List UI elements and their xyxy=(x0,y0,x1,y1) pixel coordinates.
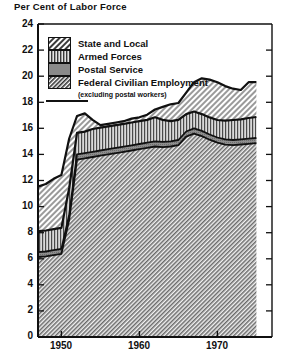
legend-swatch-armed-forces xyxy=(48,50,71,63)
y-tick-label-20: 20 xyxy=(13,70,33,81)
legend-label-postal-service: Postal Service xyxy=(78,65,143,75)
legend-item-postal-service: Postal Service xyxy=(48,63,244,76)
y-tick-label-4: 4 xyxy=(13,278,33,289)
legend-swatch-postal-service xyxy=(48,63,71,76)
y-tick-label-0: 0 xyxy=(13,330,33,341)
x-tick-label-1960: 1960 xyxy=(119,340,159,351)
y-tick-label-12: 12 xyxy=(13,174,33,185)
y-tick-label-6: 6 xyxy=(13,252,33,263)
y-tick-label-10: 10 xyxy=(13,200,33,211)
legend-label-armed-forces: Armed Forces xyxy=(78,52,142,62)
legend-label-federal-civilian-employment: Federal Civilian Employment xyxy=(78,78,208,88)
y-tick-label-16: 16 xyxy=(13,122,33,133)
y-tick-label-2: 2 xyxy=(13,304,33,315)
y-tick-label-22: 22 xyxy=(13,44,33,55)
legend-swatch-federal-civilian-employment xyxy=(48,76,71,89)
legend-baseline-bar xyxy=(46,100,88,102)
y-tick-label-24: 24 xyxy=(13,18,33,29)
y-tick-label-8: 8 xyxy=(13,226,33,237)
chart-figure: Per Cent of Labor Force xyxy=(0,0,290,361)
chart-legend: State and Local Armed Forces Postal Serv… xyxy=(48,37,244,99)
legend-item-state-and-local: State and Local xyxy=(48,37,244,50)
y-tick-label-14: 14 xyxy=(13,148,33,159)
legend-item-armed-forces: Armed Forces xyxy=(48,50,244,63)
legend-note: (excluding postal workers) xyxy=(78,91,167,98)
y-tick-label-18: 18 xyxy=(13,96,33,107)
legend-label-state-and-local: State and Local xyxy=(78,39,148,49)
x-tick-label-1950: 1950 xyxy=(41,340,81,351)
legend-swatch-state-and-local xyxy=(48,37,71,50)
x-tick-label-1970: 1970 xyxy=(197,340,237,351)
legend-item-federal-civilian-employment: Federal Civilian Employment xyxy=(48,76,244,89)
